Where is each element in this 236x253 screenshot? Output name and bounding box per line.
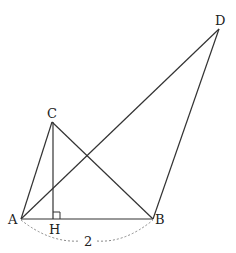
- label-D: D: [215, 13, 225, 28]
- label-H: H: [49, 222, 60, 237]
- label-B: B: [155, 212, 165, 227]
- segment-BD: [153, 29, 219, 219]
- right-angle-mark: [53, 212, 60, 219]
- label-C: C: [47, 106, 57, 121]
- geometry-diagram: A B C D H 2: [0, 0, 236, 253]
- segment-AD: [21, 29, 219, 219]
- dimension-arc-right: [97, 220, 153, 241]
- dimension-label: 2: [84, 234, 92, 249]
- segment-CB: [52, 122, 153, 219]
- label-A: A: [7, 212, 18, 227]
